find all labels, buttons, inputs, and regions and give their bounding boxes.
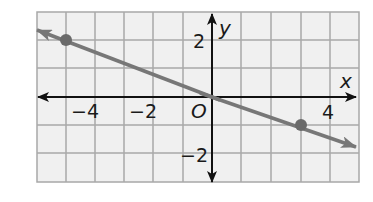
y-axis-label: y (218, 16, 232, 40)
point-3-neg1 (295, 119, 307, 131)
x-tick-label-4: 4 (322, 101, 334, 123)
point-neg5-2 (60, 34, 72, 46)
y-tick-label-2: 2 (193, 30, 205, 52)
coordinate-graph: y x O −4 −2 4 2 −2 (0, 0, 373, 202)
x-axis-label: x (339, 69, 352, 93)
y-tick-label-neg2: −2 (180, 144, 208, 166)
x-tick-label-neg2: −2 (129, 100, 157, 122)
x-tick-label-neg4: −4 (71, 100, 99, 122)
origin-label: O (191, 99, 207, 123)
